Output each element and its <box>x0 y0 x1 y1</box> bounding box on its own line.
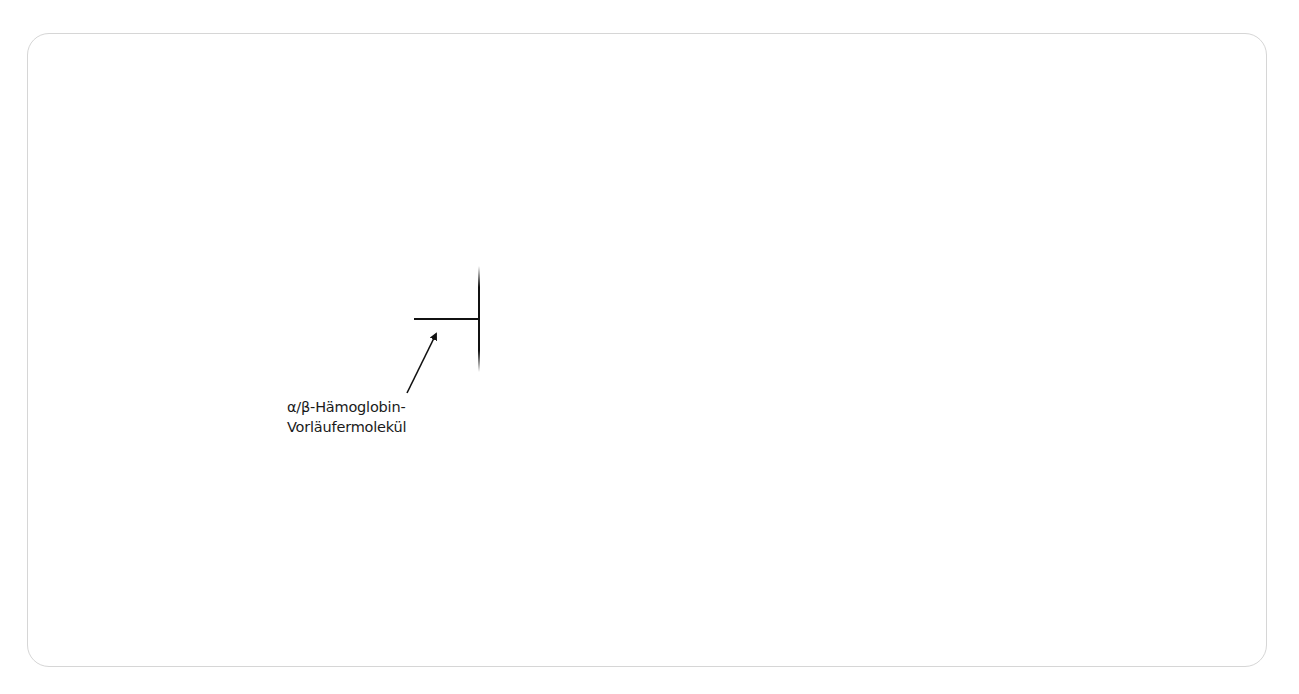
label-line-1: α/β-Hämoglobin- <box>287 397 406 417</box>
pointer-arrow <box>407 334 436 393</box>
label-line-2: Vorläufermolekül <box>287 417 406 437</box>
diagram-canvas <box>0 0 1299 694</box>
molecule-label: α/β-Hämoglobin- Vorläufermolekül <box>287 397 406 437</box>
